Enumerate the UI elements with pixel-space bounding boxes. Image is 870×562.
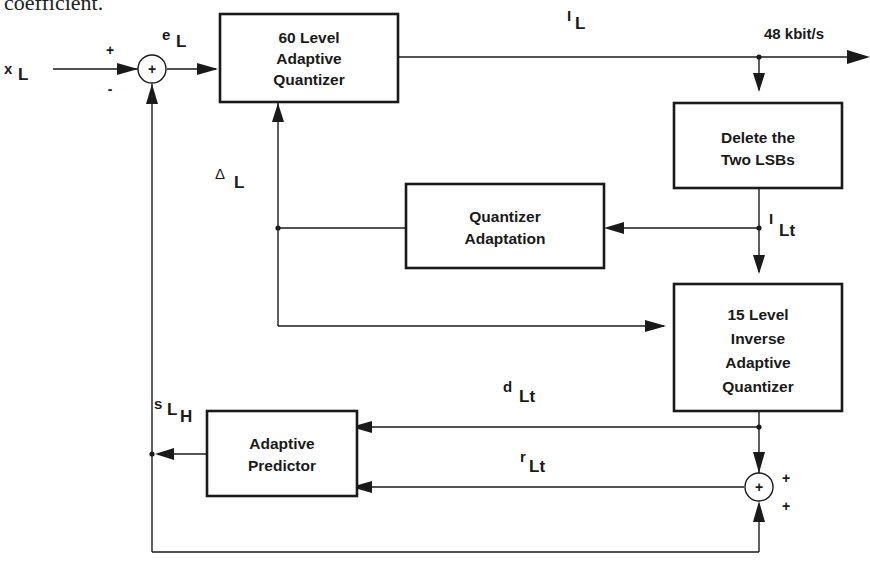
block-60-level-adaptive-quantizer: 60 Level Adaptive Quantizer: [220, 14, 398, 102]
junction-dlt: [756, 424, 761, 429]
adder-sign-plus: +: [782, 470, 790, 486]
signal-main: x: [4, 60, 13, 77]
block-label-line: 60 Level: [278, 29, 339, 46]
signal-main: e: [162, 26, 170, 43]
block-label-line: Quantizer: [273, 71, 344, 88]
arrow-delta-into-inverse: [645, 320, 666, 332]
junction-il: [756, 54, 761, 59]
signal-sub: L: [167, 400, 177, 419]
junction-slh: [149, 451, 154, 456]
signal-sub: Lt: [519, 387, 535, 406]
block-delete-two-lsbs: Delete the Two LSBs: [674, 103, 842, 188]
adder-sign-plus: +: [106, 42, 114, 58]
signal-label-e-l: e L: [162, 26, 186, 51]
block-frame: [406, 184, 604, 268]
adder-plus-icon: +: [755, 479, 763, 495]
arrow-into-input-adder: [117, 63, 138, 75]
block-label-line: Two LSBs: [721, 151, 795, 168]
block-label-line: Quantizer: [722, 378, 793, 395]
signal-main: r: [520, 448, 526, 465]
signal-label-i-l: I L: [567, 7, 585, 33]
adpcm-encoder-diagram: coefficient.: [0, 0, 870, 562]
caption-fragment: coefficient.: [4, 0, 103, 15]
arrow-ilt-into-inverse: [753, 255, 765, 274]
reconstruction-adder: + + +: [745, 470, 790, 514]
junction-ilt: [756, 225, 761, 230]
signal-sub: L: [176, 32, 186, 51]
signal-main: s: [154, 395, 162, 412]
signal-main: I: [567, 7, 571, 24]
signal-sub: L: [234, 173, 244, 192]
block-quantizer-adaptation: Quantizer Adaptation: [406, 184, 604, 268]
block-15-level-inverse-adaptive-quantizer: 15 Level Inverse Adaptive Quantizer: [674, 284, 842, 411]
signal-label-d-lt: d Lt: [503, 378, 535, 406]
arrow-dlt-into-recon-adder: [753, 452, 765, 473]
signal-label-x-l: x L: [4, 60, 28, 84]
block-label-line: Adaptive: [276, 50, 342, 67]
signal-sub: L: [575, 14, 585, 33]
signal-sub: Lt: [529, 457, 545, 476]
block-adaptive-predictor: Adaptive Predictor: [207, 411, 357, 496]
arrow-into-delete-lsbs: [753, 73, 765, 92]
signal-main: I: [769, 210, 773, 227]
adder-sign-plus: +: [782, 498, 790, 514]
signal-sub: H: [180, 407, 192, 426]
adder-plus-icon: +: [148, 61, 156, 77]
signal-label-i-lt: I Lt: [769, 210, 795, 240]
block-label-line: 15 Level: [727, 306, 788, 323]
block-label-line: Adaptive: [725, 354, 791, 371]
arrow-into-quantizer60: [197, 63, 218, 75]
signal-sub: L: [18, 65, 28, 84]
signal-label-s-lh: s L H: [154, 395, 192, 426]
arrow-into-quantizer-adaptation: [604, 222, 624, 234]
arrow-slh-into-input-adder: [146, 84, 158, 104]
adder-sign-minus: -: [108, 81, 113, 97]
block-label-line: Inverse: [731, 330, 786, 347]
output-rate-label: 48 kbit/s: [764, 25, 824, 42]
arrow-output-48kbits: [847, 50, 870, 64]
block-label-line: Predictor: [248, 457, 316, 474]
arrow-predictor-output: [155, 448, 174, 460]
block-frame: [207, 411, 357, 496]
block-label-line: Quantizer: [469, 208, 540, 225]
signal-label-r-lt: r Lt: [520, 448, 545, 476]
signal-sub: Lt: [779, 221, 795, 240]
block-label-line: Adaptation: [465, 230, 546, 247]
block-label-line: Adaptive: [249, 435, 315, 452]
arrow-slh-into-recon-adder: [753, 501, 765, 522]
block-label-line: Delete the: [721, 129, 795, 146]
arrow-delta-into-quantizer60: [272, 103, 284, 122]
junction-delta: [275, 225, 280, 230]
signal-label-delta-l: Δ L: [215, 165, 244, 192]
signal-main: d: [503, 378, 512, 395]
signal-main: Δ: [215, 165, 225, 182]
